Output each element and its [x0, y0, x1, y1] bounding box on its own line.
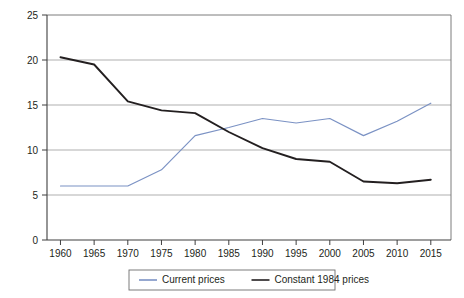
chart-legend: Current pricesConstant 1984 prices — [129, 270, 369, 290]
x-tick-label: 2000 — [319, 248, 342, 259]
x-tick-label: 1980 — [184, 248, 207, 259]
x-tick-label: 2015 — [420, 248, 443, 259]
x-tick-label: 1970 — [117, 248, 140, 259]
x-tick-label: 1960 — [49, 248, 72, 259]
x-tick-label: 1985 — [218, 248, 241, 259]
y-tick-label: 15 — [27, 100, 39, 111]
x-tick-label: 1975 — [150, 248, 173, 259]
x-tick-label: 2010 — [386, 248, 409, 259]
x-tick-label: 1990 — [251, 248, 274, 259]
plot-area-background — [47, 15, 451, 240]
x-tick-label: 2005 — [352, 248, 375, 259]
y-tick-label: 25 — [27, 10, 39, 21]
chart-canvas: 0510152025 19601965197019751980198519901… — [0, 0, 464, 298]
line-chart: 0510152025 19601965197019751980198519901… — [0, 0, 464, 298]
y-axis-ticks: 0510152025 — [27, 10, 47, 246]
legend-label-0: Current prices — [162, 274, 225, 285]
y-tick-label: 0 — [32, 235, 38, 246]
y-tick-label: 20 — [27, 55, 39, 66]
x-axis-ticks: 1960196519701975198019851990199520002005… — [49, 240, 442, 259]
x-tick-label: 1965 — [83, 248, 106, 259]
y-tick-label: 10 — [27, 145, 39, 156]
legend-label-1: Constant 1984 prices — [275, 274, 370, 285]
x-tick-label: 1995 — [285, 248, 308, 259]
y-tick-label: 5 — [32, 190, 38, 201]
